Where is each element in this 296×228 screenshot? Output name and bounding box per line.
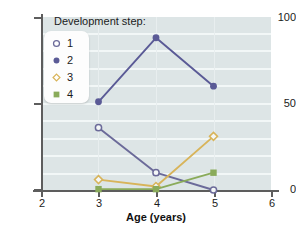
- legend-box: 1 2 3 4: [44, 31, 89, 103]
- legend-item-label: 1: [67, 38, 73, 49]
- gridline-vertical: [214, 17, 215, 190]
- x-axis-tick-label: 4: [145, 197, 169, 209]
- legend-item-4[interactable]: 4: [52, 86, 73, 102]
- x-axis-tick: [214, 190, 216, 197]
- y-axis-tick-label: 0: [270, 183, 296, 195]
- x-axis-tick: [41, 190, 43, 197]
- x-axis-title: Age (years): [41, 211, 271, 223]
- filled-circle-icon: [52, 56, 61, 65]
- open-diamond-icon: [52, 73, 61, 82]
- y-axis-tick-label: 50: [270, 97, 296, 109]
- legend-item-label: 2: [67, 55, 73, 66]
- gridline-vertical: [98, 17, 99, 190]
- legend-item-2[interactable]: 2: [52, 52, 73, 68]
- x-axis-tick-label: 3: [87, 197, 111, 209]
- legend-item-1[interactable]: 1: [52, 35, 73, 51]
- line-chart: 100 50 0 2 3 4 5 6 Age (years) Developme…: [0, 0, 296, 228]
- filled-square-icon: [52, 90, 61, 99]
- x-axis-tick-label: 2: [30, 197, 54, 209]
- x-axis-tick: [156, 190, 158, 197]
- open-circle-icon: [52, 39, 61, 48]
- legend-item-label: 4: [67, 89, 73, 100]
- gridline-vertical: [156, 17, 157, 190]
- x-axis-tick: [98, 190, 100, 197]
- legend-item-label: 3: [67, 72, 73, 83]
- legend-item-3[interactable]: 3: [52, 69, 73, 85]
- x-axis-tick: [271, 190, 273, 197]
- x-axis-tick-label: 5: [203, 197, 227, 209]
- legend-title: Development step:: [54, 15, 146, 27]
- y-axis-tick-label: 100: [270, 11, 296, 23]
- y-axis-tick: [34, 103, 42, 105]
- x-axis-tick-label: 6: [260, 197, 284, 209]
- y-axis-tick: [34, 17, 42, 19]
